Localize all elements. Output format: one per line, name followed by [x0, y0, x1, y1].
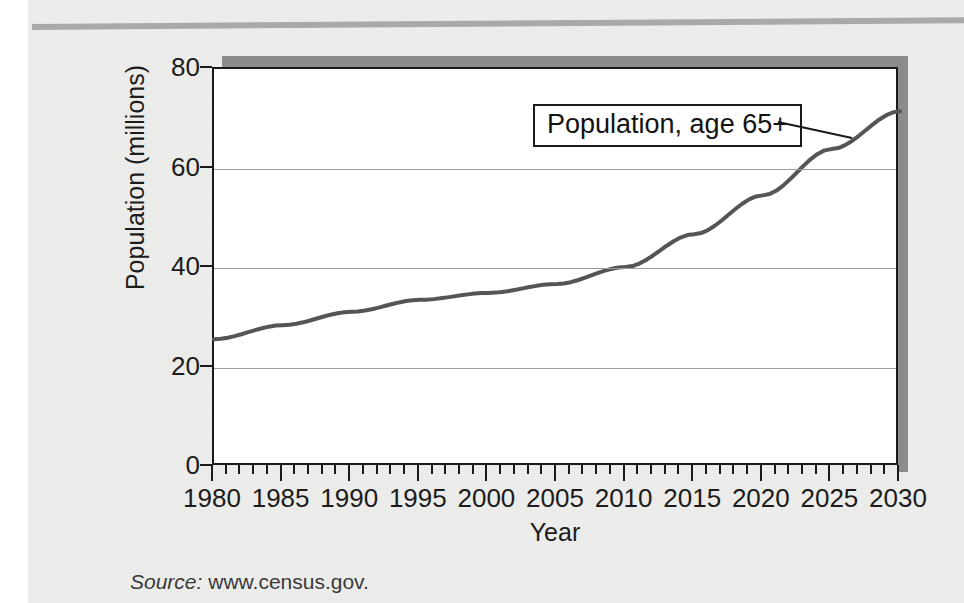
- gridline: [214, 368, 896, 369]
- x-axis-minor-tick: [883, 465, 885, 474]
- x-axis-major-tick: [348, 465, 350, 481]
- population-line-chart: Population (millions) 020406080 19801985…: [0, 0, 964, 603]
- source-value: www.census.gov.: [208, 570, 369, 593]
- y-axis-tick-label: 0: [136, 452, 200, 478]
- x-axis-minor-tick: [568, 465, 570, 474]
- plot-frame-shadow-top: [222, 56, 908, 67]
- x-axis-major-tick: [554, 465, 556, 481]
- x-axis-minor-tick: [321, 465, 323, 474]
- y-axis-title-wrap: Population (millions): [60, 67, 100, 465]
- x-axis-minor-tick: [705, 465, 707, 474]
- x-axis-major-tick: [211, 465, 213, 481]
- x-axis-minor-tick: [801, 465, 803, 474]
- source-caption: Source: www.census.gov.: [130, 570, 369, 594]
- x-axis-minor-tick: [719, 465, 721, 474]
- x-axis-minor-tick: [636, 465, 638, 474]
- gridline: [214, 268, 896, 269]
- x-axis-major-tick: [828, 465, 830, 481]
- x-axis-minor-tick: [609, 465, 611, 474]
- y-axis-tick-mark: [200, 66, 212, 68]
- x-axis-tick-label: 2030: [843, 483, 953, 514]
- x-axis-minor-tick: [870, 465, 872, 474]
- x-axis-minor-tick: [334, 465, 336, 474]
- x-axis-minor-tick: [856, 465, 858, 474]
- x-axis-minor-tick: [307, 465, 309, 474]
- annotation-callout-label: Population, age 65+: [533, 104, 802, 147]
- x-axis-minor-tick: [540, 465, 542, 474]
- y-axis: 020406080: [130, 67, 200, 465]
- x-axis-minor-tick: [376, 465, 378, 474]
- x-axis-minor-tick: [389, 465, 391, 474]
- annotation-leader-line: [770, 100, 870, 160]
- x-axis-minor-tick: [362, 465, 364, 474]
- y-axis-tick-label: 20: [136, 353, 200, 379]
- x-axis-minor-tick: [431, 465, 433, 474]
- x-axis-minor-tick: [252, 465, 254, 474]
- x-axis-minor-tick: [842, 465, 844, 474]
- y-axis-tick-label: 40: [136, 253, 200, 279]
- x-axis-minor-tick: [677, 465, 679, 474]
- x-axis-major-tick: [760, 465, 762, 481]
- x-axis-minor-tick: [403, 465, 405, 474]
- x-axis-minor-tick: [444, 465, 446, 474]
- x-axis-minor-tick: [499, 465, 501, 474]
- x-axis-major-tick: [417, 465, 419, 481]
- x-axis-minor-tick: [225, 465, 227, 474]
- gridline: [214, 169, 896, 170]
- x-axis-minor-tick: [266, 465, 268, 474]
- x-axis-minor-tick: [293, 465, 295, 474]
- y-axis-tick-mark: [200, 265, 212, 267]
- x-axis-title: Year: [212, 518, 898, 547]
- x-axis-major-tick: [485, 465, 487, 481]
- x-axis: 1980198519901995200020052010201520202025…: [212, 465, 898, 485]
- x-axis-minor-tick: [746, 465, 748, 474]
- x-axis-minor-tick: [513, 465, 515, 474]
- x-axis-major-tick: [897, 465, 899, 481]
- x-axis-minor-tick: [815, 465, 817, 474]
- y-axis-tick-mark: [200, 166, 212, 168]
- x-axis-minor-tick: [472, 465, 474, 474]
- y-axis-tick-mark: [200, 365, 212, 367]
- x-axis-major-tick: [623, 465, 625, 481]
- x-axis-minor-tick: [527, 465, 529, 474]
- x-axis-minor-tick: [650, 465, 652, 474]
- x-axis-minor-tick: [458, 465, 460, 474]
- x-axis-minor-tick: [774, 465, 776, 474]
- x-axis-minor-tick: [581, 465, 583, 474]
- x-axis-major-tick: [280, 465, 282, 481]
- x-axis-minor-tick: [664, 465, 666, 474]
- x-axis-minor-tick: [787, 465, 789, 474]
- y-axis-tick-label: 60: [136, 154, 200, 180]
- y-axis-tick-label: 80: [136, 54, 200, 80]
- x-axis-minor-tick: [595, 465, 597, 474]
- x-axis-minor-tick: [238, 465, 240, 474]
- x-axis-minor-tick: [732, 465, 734, 474]
- source-label: Source:: [130, 570, 202, 593]
- x-axis-major-tick: [691, 465, 693, 481]
- book-page: Population (millions) 020406080 19801985…: [0, 0, 964, 603]
